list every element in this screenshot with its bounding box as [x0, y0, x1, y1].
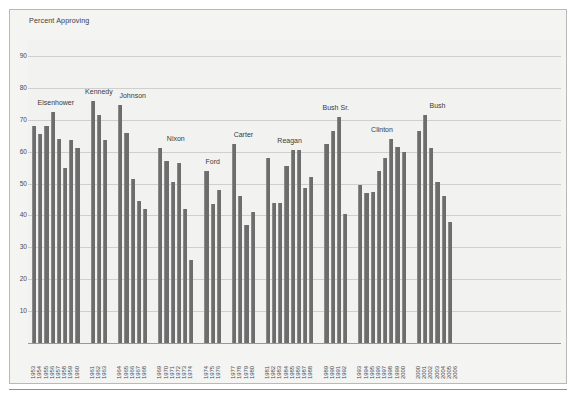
bottom-rule: [9, 389, 567, 390]
x-tick-label: 1960: [74, 366, 80, 379]
y-tick-label-30: 30: [11, 243, 27, 250]
x-tick-label: 1995: [369, 366, 375, 379]
group-label-bush: Bush: [430, 102, 446, 109]
president-group-labels: EisenhowerKennedyJohnsonNixonFordCarterR…: [28, 40, 561, 343]
y-tick-label-10: 10: [11, 307, 27, 314]
x-tick-label: 1984: [283, 366, 289, 379]
x-tick-label: 2004: [440, 366, 446, 379]
x-tick-label: 1961: [89, 366, 95, 379]
x-tick-label: 2003: [434, 366, 440, 379]
y-tick-label-40: 40: [11, 211, 27, 218]
x-tick-label: 1971: [169, 366, 175, 379]
x-tick-label: 1993: [356, 366, 362, 379]
x-tick-label: 1988: [307, 366, 313, 379]
x-tick-label: 1985: [289, 366, 295, 379]
x-tick-label: 1975: [209, 366, 215, 379]
x-axis-year-labels: 1953195419551956195719581959196019611962…: [28, 345, 561, 379]
x-tick-label: 1980: [249, 366, 255, 379]
x-tick-label: 1990: [329, 366, 335, 379]
x-tick-label: 1954: [36, 366, 42, 379]
x-tick-label: 1992: [341, 366, 347, 379]
y-axis-title: Percent Approving: [29, 16, 89, 25]
y-tick-label-60: 60: [11, 148, 27, 155]
group-label-nixon: Nixon: [167, 135, 185, 142]
y-tick-label-70: 70: [11, 116, 27, 123]
group-label-johnson: Johnson: [119, 92, 145, 99]
x-tick-label: 2006: [452, 366, 458, 379]
x-tick-label: 1969: [156, 366, 162, 379]
x-tick-label: 2002: [427, 366, 433, 379]
group-label-clinton: Clinton: [371, 126, 393, 133]
x-tick-label: 1994: [363, 366, 369, 379]
x-tick-label: 1970: [163, 366, 169, 379]
x-axis-line: [28, 343, 561, 344]
x-tick-label: 1978: [236, 366, 242, 379]
x-tick-label: 1998: [387, 366, 393, 379]
group-label-eisenhower: Eisenhower: [38, 99, 75, 106]
chart-figure: Percent Approving 102030405060708090 Eis…: [0, 0, 577, 396]
group-label-carter: Carter: [234, 131, 253, 138]
x-tick-label: 1966: [129, 366, 135, 379]
group-label-ford: Ford: [205, 158, 219, 165]
group-label-reagan: Reagan: [277, 137, 302, 144]
x-tick-label: 1979: [243, 366, 249, 379]
x-tick-label: 1999: [394, 366, 400, 379]
x-tick-label: 2000: [400, 366, 406, 379]
y-tick-label-20: 20: [11, 275, 27, 282]
x-tick-label: 1983: [276, 366, 282, 379]
x-tick-label: 1989: [323, 366, 329, 379]
x-tick-label: 1965: [123, 366, 129, 379]
y-tick-label-90: 90: [11, 52, 27, 59]
y-tick-label-80: 80: [11, 84, 27, 91]
x-tick-label: 1963: [101, 366, 107, 379]
y-tick-label-50: 50: [11, 180, 27, 187]
x-tick-label: 1964: [116, 366, 122, 379]
x-tick-label: 1976: [215, 366, 221, 379]
x-tick-label: 1959: [67, 366, 73, 379]
x-tick-label: 1974: [187, 366, 193, 379]
x-tick-label: 1968: [141, 366, 147, 379]
group-label-kennedy: Kennedy: [85, 88, 113, 95]
group-label-bushsr: Bush Sr.: [323, 104, 349, 111]
x-tick-label: 1955: [43, 366, 49, 379]
x-tick-label: 1974: [203, 366, 209, 379]
x-tick-label: 1956: [49, 366, 55, 379]
